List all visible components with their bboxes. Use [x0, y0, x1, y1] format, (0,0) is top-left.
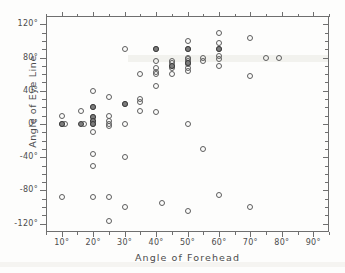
x-tick-minor	[109, 232, 110, 235]
data-point-open	[247, 35, 253, 41]
x-tick-major	[313, 232, 314, 237]
data-point-open	[153, 83, 159, 89]
x-tick-minor-top	[329, 14, 330, 17]
x-tick-major	[125, 232, 126, 237]
y-tick-minor	[42, 116, 46, 117]
data-point-open	[90, 88, 96, 94]
data-point-open	[106, 123, 112, 129]
x-tick-major	[219, 232, 220, 237]
y-tick-minor	[42, 174, 46, 175]
x-tick-minor	[298, 232, 299, 235]
data-point-filled	[122, 101, 128, 107]
y-tick-minor	[42, 66, 46, 67]
y-tick-major	[40, 58, 46, 59]
y-tick-minor-right	[325, 82, 329, 83]
y-tick-label: 40°	[0, 86, 38, 95]
data-point-open	[122, 154, 128, 160]
y-tick-major-right	[323, 224, 329, 225]
y-tick-minor-right	[325, 49, 329, 50]
x-tick-minor	[172, 232, 173, 235]
x-tick-minor-top	[172, 14, 173, 17]
y-tick-major-right	[323, 91, 329, 92]
x-tick-minor-top	[46, 14, 47, 17]
data-point-filled	[185, 46, 191, 52]
y-tick-minor	[42, 166, 46, 167]
y-tick-minor-right	[325, 107, 329, 108]
data-point-open	[106, 194, 112, 200]
y-tick-major	[40, 91, 46, 92]
y-tick-minor	[42, 82, 46, 83]
y-tick-minor-right	[325, 166, 329, 167]
x-tick-minor	[77, 232, 78, 235]
data-point-open	[122, 46, 128, 52]
x-tick-minor-top	[140, 14, 141, 17]
x-tick-major-top	[282, 12, 283, 17]
data-point-open	[122, 121, 128, 127]
x-tick-minor-top	[266, 14, 267, 17]
data-point-open	[263, 55, 269, 61]
y-tick-minor	[42, 215, 46, 216]
x-tick-minor	[46, 232, 47, 235]
data-point-filled	[59, 121, 65, 127]
y-tick-minor	[42, 74, 46, 75]
y-tick-minor	[42, 132, 46, 133]
x-tick-minor-top	[109, 14, 110, 17]
x-axis-title: Angle of Forehead	[46, 252, 329, 263]
y-tick-minor-right	[325, 141, 329, 142]
data-point-open	[59, 113, 65, 119]
y-tick-major	[40, 124, 46, 125]
y-tick-minor-right	[325, 116, 329, 117]
data-point-open	[276, 55, 282, 61]
y-tick-major	[40, 190, 46, 191]
y-tick-minor	[42, 99, 46, 100]
y-tick-label: 0°	[0, 119, 38, 128]
x-tick-major-top	[313, 12, 314, 17]
data-point-open	[153, 58, 159, 64]
x-tick-minor	[203, 232, 204, 235]
y-tick-minor-right	[325, 182, 329, 183]
y-tick-minor-right	[325, 66, 329, 67]
x-tick-major	[188, 232, 189, 237]
data-point-open	[216, 40, 222, 46]
data-point-open	[90, 163, 96, 169]
data-point-filled	[169, 63, 175, 69]
x-tick-minor	[235, 232, 236, 235]
y-tick-minor	[42, 207, 46, 208]
y-tick-minor-right	[325, 41, 329, 42]
x-tick-minor	[140, 232, 141, 235]
data-point-open	[78, 108, 84, 114]
y-tick-minor-right	[325, 33, 329, 34]
y-tick-label: 80°	[0, 53, 38, 62]
y-tick-minor	[42, 199, 46, 200]
data-point-open	[169, 71, 175, 77]
data-point-open	[216, 30, 222, 36]
y-tick-minor	[42, 182, 46, 183]
y-tick-minor	[42, 107, 46, 108]
data-point-open	[59, 194, 65, 200]
scatter-plot-figure: Angle of Eye Line Angle of Forehead 120°…	[0, 0, 345, 273]
y-tick-label: -80°	[0, 185, 38, 194]
x-tick-label: 90°	[293, 238, 333, 247]
y-tick-major-right	[323, 124, 329, 125]
y-tick-major-right	[323, 24, 329, 25]
y-tick-minor	[42, 49, 46, 50]
y-tick-label: 120°	[0, 19, 38, 28]
y-tick-minor-right	[325, 149, 329, 150]
x-tick-major-top	[250, 12, 251, 17]
x-tick-minor-top	[235, 14, 236, 17]
y-tick-major-right	[323, 190, 329, 191]
data-point-open	[122, 204, 128, 210]
x-tick-major	[156, 232, 157, 237]
x-tick-major-top	[93, 12, 94, 17]
data-point-filled	[185, 60, 191, 66]
x-tick-major-top	[188, 12, 189, 17]
y-tick-minor	[42, 33, 46, 34]
y-tick-major	[40, 24, 46, 25]
data-point-open	[216, 63, 222, 69]
y-tick-major	[40, 157, 46, 158]
x-tick-major	[93, 232, 94, 237]
x-tick-major-top	[156, 12, 157, 17]
data-point-filled	[78, 121, 84, 127]
y-tick-minor	[42, 41, 46, 42]
data-point-open	[185, 68, 191, 74]
